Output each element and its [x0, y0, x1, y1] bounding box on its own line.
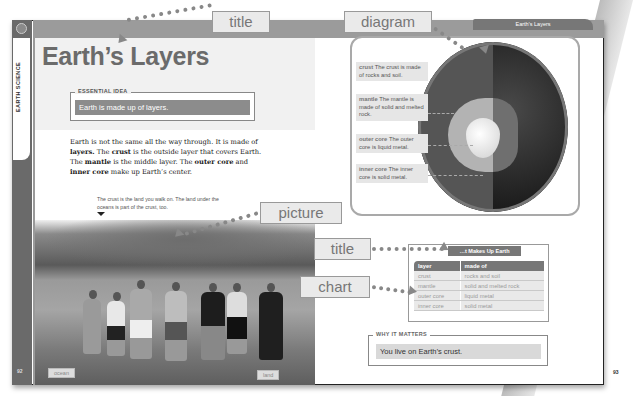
annotation-picture-label: picture — [260, 202, 342, 224]
why-it-matters-label: WHY IT MATTERS — [373, 331, 430, 337]
column-header: made of — [460, 261, 544, 271]
person-figure — [227, 292, 247, 354]
why-it-matters-box: WHY IT MATTERS You live on Earth’s crust… — [368, 335, 548, 366]
callout-term: crust — [359, 64, 373, 70]
essential-idea-text: Earth is made up of layers. — [75, 100, 250, 115]
table-row: crust rocks and soil — [414, 271, 544, 281]
person-figure — [83, 299, 101, 354]
spine-label: EARTH SCIENCE — [15, 58, 29, 116]
callout-term: mantle — [359, 96, 378, 102]
page-number-left: 92 — [17, 368, 23, 374]
callout-crust: crust The crust is made of rocks and soi… — [356, 62, 428, 81]
running-head: Earth’s Layers — [473, 19, 593, 30]
header-band-left — [35, 20, 315, 38]
cell-made-of: solid and melted rock — [460, 281, 544, 291]
annotation-arrowhead-icon — [408, 285, 418, 296]
leader-line — [428, 175, 483, 176]
annotation-title-label: title — [212, 11, 270, 33]
table-header-row: layer made of — [414, 261, 544, 271]
land-tag: land — [257, 370, 279, 380]
table-row: inner core solid metal — [414, 301, 544, 311]
callout-inner-core: inner core The inner core is solid metal… — [356, 164, 428, 183]
spine-tab: EARTH SCIENCE — [13, 38, 30, 160]
table-title: …t Makes Up Earth — [448, 246, 521, 256]
earth-cutaway-globe — [418, 42, 568, 212]
person-head — [209, 283, 217, 292]
cell-made-of: solid metal — [460, 301, 544, 311]
page-number-right: 93 — [613, 369, 619, 375]
person-head — [233, 283, 241, 292]
table-row: outer core liquid metal — [414, 291, 544, 301]
person-head — [89, 290, 97, 299]
person-figure — [165, 291, 187, 361]
person-figure — [201, 292, 225, 360]
callout-mantle: mantle The mantle is made of solid and m… — [356, 94, 428, 121]
person-head — [137, 280, 145, 289]
cell-layer: mantle — [414, 281, 460, 291]
column-header: layer — [414, 261, 460, 271]
cell-made-of: liquid metal — [460, 291, 544, 301]
person-figure — [259, 292, 283, 360]
leader-line — [428, 113, 454, 114]
layers-table: layer made of crust rocks and soil mantl… — [414, 261, 544, 311]
person-head — [267, 283, 275, 292]
person-figure — [130, 289, 152, 359]
annotation-diagram-label: diagram — [344, 11, 432, 33]
callout-term: inner core — [359, 166, 387, 172]
person-head — [172, 282, 180, 291]
ocean-tag: ocean — [48, 368, 75, 378]
photo-caption: The crust is the land you walk on. The l… — [97, 196, 227, 211]
annotation-title-table-label: title — [314, 238, 371, 260]
beach-photo: ocean land — [35, 220, 315, 385]
person-head — [113, 292, 121, 301]
cell-layer: outer core — [414, 291, 460, 301]
crust-layer — [418, 42, 568, 212]
body-paragraph: Earth is not the same all the way throug… — [70, 137, 270, 177]
essential-idea-label: ESSENTIAL IDEA — [75, 88, 131, 94]
callout-term: outer core — [359, 136, 387, 142]
cell-made-of: rocks and soil — [460, 271, 544, 281]
publisher-logo-icon — [16, 23, 27, 34]
cell-layer: crust — [414, 271, 460, 281]
why-it-matters-text: You live on Earth’s crust. — [376, 344, 541, 359]
person-figure — [107, 301, 125, 356]
leader-line — [428, 145, 473, 146]
cell-layer: inner core — [414, 301, 460, 311]
annotation-chart-label: chart — [300, 276, 370, 298]
caption-pointer-icon — [97, 212, 105, 216]
callout-outer-core: outer core The outer core is liquid meta… — [356, 134, 428, 153]
page-title: Earth’s Layers — [42, 42, 209, 71]
annotation-arrow-icon — [372, 247, 444, 251]
essential-idea-box: ESSENTIAL IDEA Earth is made up of layer… — [70, 92, 255, 121]
table-row: mantle solid and melted rock — [414, 281, 544, 291]
